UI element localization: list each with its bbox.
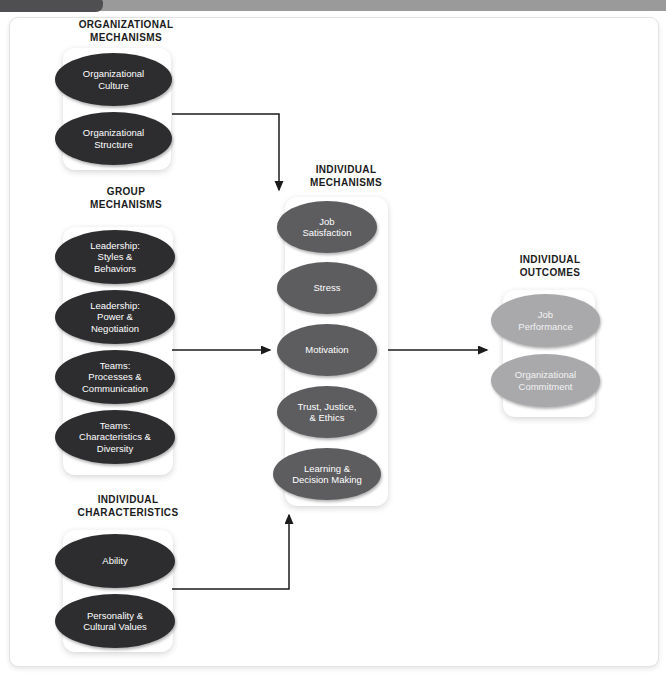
- node-job-satisfaction[interactable]: Job Satisfaction: [277, 201, 377, 253]
- window-top-bar: [0, 0, 666, 11]
- node-ability[interactable]: Ability: [55, 534, 175, 588]
- node-organizational-culture[interactable]: Organizational Culture: [55, 53, 172, 106]
- heading-organizational-mechanisms: ORGANIZATIONAL MECHANISMS: [63, 19, 189, 44]
- node-organizational-commitment[interactable]: Organizational Commitment: [491, 354, 600, 407]
- node-stress[interactable]: Stress: [277, 262, 377, 314]
- heading-individual-characteristics: INDIVIDUAL CHARACTERISTICS: [58, 494, 198, 519]
- node-leadership-power-negotiation[interactable]: Leadership: Power & Negotiation: [55, 290, 175, 344]
- window-tab[interactable]: [0, 0, 103, 12]
- node-personality-cultural-values[interactable]: Personality & Cultural Values: [55, 594, 175, 648]
- node-teams-characteristics-diversity[interactable]: Teams: Characteristics & Diversity: [55, 410, 175, 464]
- node-learning-decision-making[interactable]: Learning & Decision Making: [273, 448, 381, 500]
- heading-individual-outcomes: INDIVIDUAL OUTCOMES: [487, 254, 613, 279]
- node-organizational-structure[interactable]: Organizational Structure: [55, 112, 172, 165]
- node-job-performance[interactable]: Job Performance: [491, 294, 600, 347]
- node-trust-justice-ethics[interactable]: Trust, Justice, & Ethics: [277, 386, 377, 438]
- screenshot-root: ORGANIZATIONAL MECHANISMS Organizational…: [0, 0, 666, 679]
- heading-group-mechanisms: GROUP MECHANISMS: [63, 186, 189, 211]
- node-motivation[interactable]: Motivation: [277, 324, 377, 376]
- heading-individual-mechanisms: INDIVIDUAL MECHANISMS: [283, 164, 409, 189]
- node-teams-processes-communication[interactable]: Teams: Processes & Communication: [55, 350, 175, 404]
- node-leadership-styles-behaviors[interactable]: Leadership: Styles & Behaviors: [55, 230, 175, 284]
